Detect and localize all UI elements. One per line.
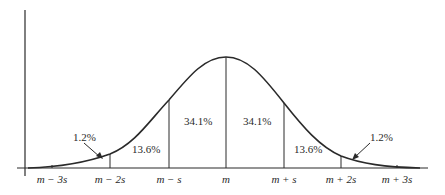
label-right-inner: 13.6% [294, 143, 322, 155]
tick-label-m-plus-3s: m + 3s [382, 173, 413, 185]
label-left-center: 34.1% [184, 115, 212, 127]
tick-label-m: m [222, 173, 230, 185]
label-left-tail: 1.2% [73, 131, 96, 143]
tick-label-m-minus-2s: m − 2s [95, 173, 126, 185]
tick-label-m-plus-2s: m + 2s [326, 173, 357, 185]
tick-label-m-plus-s: m + s [271, 173, 296, 185]
tick-label-m-minus-3s: m − 3s [37, 173, 68, 185]
label-right-center: 34.1% [243, 115, 271, 127]
normal-distribution-diagram: 1.2% 13.6% 34.1% 34.1% 13.6% 1.2% m − 3s… [0, 0, 445, 195]
label-left-inner: 13.6% [132, 143, 160, 155]
tick-label-m-minus-s: m − s [156, 173, 181, 185]
label-right-tail: 1.2% [370, 131, 393, 143]
right-tail-arrow-line [355, 143, 370, 157]
